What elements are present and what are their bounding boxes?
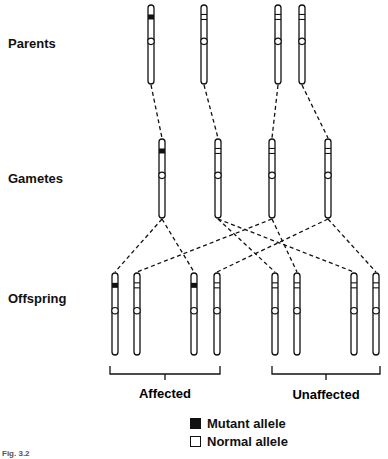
mutant-allele-band xyxy=(148,14,154,19)
unaffected-bracket xyxy=(272,366,380,380)
centromere xyxy=(269,172,275,178)
legend-mutant: Mutant allele xyxy=(190,416,286,431)
link-g4-o8 xyxy=(328,219,376,272)
link-g3-o2 xyxy=(137,219,272,272)
parent-chromosome-p1 xyxy=(148,5,154,84)
link-p4-g4 xyxy=(302,85,328,138)
centromere xyxy=(148,38,154,44)
offspring-chromosome-o7 xyxy=(351,273,357,355)
parent-chromosome-p2 xyxy=(201,5,207,84)
mutant-allele-band xyxy=(159,148,165,153)
offspring-chromosome-o6 xyxy=(294,273,300,355)
link-g1-o1 xyxy=(115,219,162,272)
offspring-chromosome-o8 xyxy=(373,273,379,355)
legend-mutant-label: Mutant allele xyxy=(207,416,286,431)
gamete-chromosome-g3 xyxy=(269,139,275,218)
centromere xyxy=(294,308,300,314)
link-p1-g1 xyxy=(151,85,162,138)
gamete-chromosome-g2 xyxy=(215,139,221,218)
centromere xyxy=(201,38,207,44)
link-g1-o3 xyxy=(162,219,194,272)
mutant-swatch-icon xyxy=(190,418,201,429)
offspring-chromosome-o1 xyxy=(112,273,118,355)
centromere xyxy=(325,172,331,178)
normal-swatch-icon xyxy=(190,436,201,447)
centromere xyxy=(214,308,220,314)
centromere xyxy=(191,308,197,314)
mutant-allele-band xyxy=(191,283,197,288)
centromere xyxy=(275,38,281,44)
centromere xyxy=(159,172,165,178)
affected-bracket xyxy=(110,366,220,380)
offspring-chromosome-o2 xyxy=(134,273,140,355)
offspring-chromosome-o3 xyxy=(191,273,197,355)
figure-caption: Fig. 3.2 xyxy=(2,449,30,458)
connection-lines xyxy=(115,85,376,272)
parent-chromosome-p3 xyxy=(275,5,281,84)
link-g4-o4 xyxy=(217,219,328,272)
unaffected-label: Unaffected xyxy=(292,387,359,402)
link-p2-g2 xyxy=(204,85,218,138)
gamete-chromosome-g1 xyxy=(159,139,165,218)
offspring-chromosome-o4 xyxy=(214,273,220,355)
centromere xyxy=(272,308,278,314)
parent-chromosome-p4 xyxy=(299,5,305,84)
link-g2-o5 xyxy=(218,219,275,272)
gamete-chromosome-g4 xyxy=(325,139,331,218)
centromere xyxy=(373,308,379,314)
centromere xyxy=(134,308,140,314)
centromere xyxy=(112,308,118,314)
link-g2-o7 xyxy=(218,219,354,272)
centromere xyxy=(215,172,221,178)
group-brackets: Affected Unaffected xyxy=(110,366,380,402)
centromere xyxy=(351,308,357,314)
mutant-allele-band xyxy=(112,283,118,288)
link-p3-g3 xyxy=(272,85,278,138)
affected-label: Affected xyxy=(139,386,191,401)
offspring-chromosome-o5 xyxy=(272,273,278,355)
legend-normal-label: Normal allele xyxy=(207,434,288,449)
chromosomes xyxy=(112,5,379,355)
legend-normal: Normal allele xyxy=(190,434,288,449)
centromere xyxy=(299,38,305,44)
inheritance-diagram: Affected Unaffected xyxy=(0,0,388,459)
